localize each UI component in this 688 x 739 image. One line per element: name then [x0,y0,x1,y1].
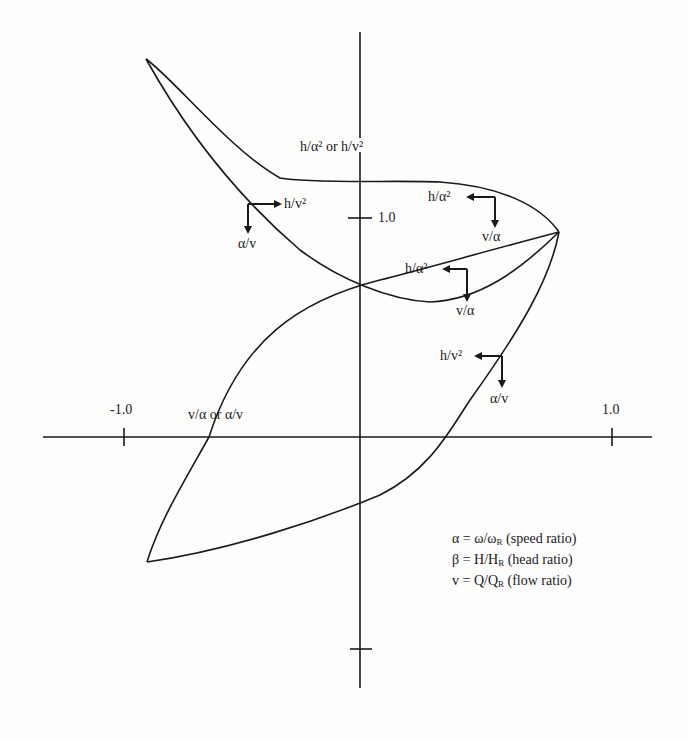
curve-lower-left [146,59,559,302]
annotation-4-v: α/v [490,392,508,406]
y-axis-label: h/α² or h/v² [300,140,363,154]
pump-characteristic-diagram [0,0,688,739]
annotation-2-h: h/α² [428,190,450,204]
annotation-2-v: v/α [482,230,500,244]
y-tick-label: 1.0 [378,211,396,225]
x-tick-neg-label: -1.0 [110,403,132,417]
annotation-4-h: h/v² [440,349,462,363]
annotation-3-v: v/α [456,304,474,318]
annotation-3-h: h/α² [405,262,427,276]
annotation-1-h: h/v² [284,197,306,211]
x-axis-label: v/α or α/v [188,408,243,422]
legend: α = ω/ωR (speed ratio) β = H/HR (head ra… [452,530,576,593]
legend-item-alpha: α = ω/ωR (speed ratio) [452,530,576,551]
annotation-1-v: α/v [238,237,256,251]
legend-item-v: v = Q/QR (flow ratio) [452,572,576,593]
legend-item-beta: β = H/HR (head ratio) [452,551,576,572]
x-tick-pos-label: 1.0 [602,403,620,417]
